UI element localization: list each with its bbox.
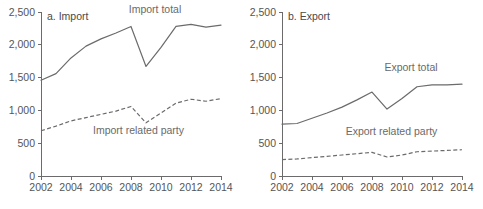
x-tick-label: 2002 [29,181,53,193]
y-tick-label: 2,000 [9,38,35,50]
x-tick-label: 2014 [209,181,233,193]
x-tick-label: 2012 [179,181,203,193]
x-tick-label: 2008 [360,181,384,193]
y-tick-label: 0 [270,170,276,182]
series-line-import-total [41,24,221,80]
chart-panel-import: 05001,0001,5002,0002,5002002200420062008… [0,0,242,209]
y-tick-label: 0 [29,170,35,182]
y-tick-label: 500 [17,137,35,149]
import-chart-group: 05001,0001,5002,0002,5002002200420062008… [9,3,233,193]
x-tick-label: 2012 [420,181,444,193]
y-tick-label: 2,500 [250,6,276,18]
chart-panel-export: 05001,0001,5002,0002,5002002200420062008… [241,0,483,209]
series-label-export-related-party: Export related party [346,125,438,137]
y-tick-label: 2,000 [250,38,276,50]
panel-title: a. Import [47,10,89,22]
x-tick-label: 2008 [119,181,143,193]
y-tick-label: 1,000 [250,104,276,116]
panel-title: b. Export [288,10,330,22]
y-tick-label: 500 [258,137,276,149]
x-tick-label: 2010 [149,181,173,193]
import-chart-svg: 05001,0001,5002,0002,5002002200420062008… [0,0,242,209]
x-tick-label: 2014 [450,181,474,193]
y-tick-label: 1,500 [9,71,35,83]
y-tick-label: 1,000 [9,104,35,116]
export-chart-group: 05001,0001,5002,0002,5002002200420062008… [250,6,474,193]
x-tick-label: 2002 [270,181,294,193]
series-label-import-related-party: Import related party [93,124,185,136]
y-tick-label: 1,500 [250,71,276,83]
x-tick-label: 2004 [300,181,324,193]
x-tick-label: 2006 [330,181,354,193]
series-line-export-related-party [282,150,462,160]
figure-container: 05001,0001,5002,0002,5002002200420062008… [0,0,483,209]
export-chart-svg: 05001,0001,5002,0002,5002002200420062008… [241,0,483,209]
series-label-import-total: Import total [129,3,182,15]
x-tick-label: 2004 [59,181,83,193]
x-tick-label: 2010 [390,181,414,193]
series-label-export-total: Export total [384,61,437,73]
y-tick-label: 2,500 [9,6,35,18]
x-tick-label: 2006 [89,181,113,193]
series-line-export-total [282,84,462,124]
